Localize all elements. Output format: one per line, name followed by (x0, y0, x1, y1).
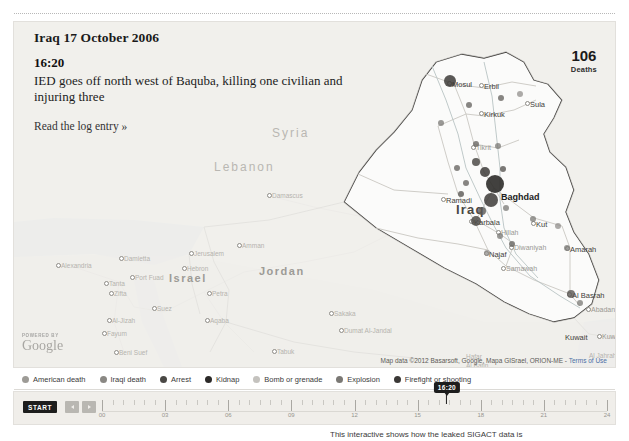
timeline-tick-major (544, 400, 545, 411)
chevron-left-icon (71, 405, 74, 409)
timeline-track[interactable]: 000306091215182124 16:20 (102, 396, 607, 422)
figure-caption: This interactive shows how the leaked SI… (330, 430, 629, 441)
timeline-tick-minor (407, 400, 408, 405)
timeline-tick-major (355, 400, 356, 411)
timeline-tick-minor (502, 400, 503, 405)
legend-item-label: American death (33, 375, 86, 384)
timeline-tick-minor (323, 400, 324, 405)
legend-item[interactable]: American death (22, 375, 86, 384)
start-button[interactable]: START (23, 401, 57, 413)
timeline-tick-label: 24 (604, 412, 611, 418)
timeline-tick-minor (186, 400, 187, 405)
timeline-tick-label: 18 (477, 412, 484, 418)
map-legend: American deathIraqi deathArrestKidnapBom… (14, 370, 615, 388)
timeline-tick-minor (302, 400, 303, 405)
timeline-tick-major (102, 400, 103, 411)
legend-item-label: Arrest (171, 375, 191, 384)
timeline-tick-label: 15 (414, 412, 421, 418)
legend-item-label: Bomb or grenade (264, 375, 322, 384)
timeline-tick-major (607, 400, 608, 411)
legend-swatch-icon (394, 376, 401, 383)
legend-item-label: Explosion (347, 375, 380, 384)
timeline-tick-major (291, 400, 292, 411)
timeline-tick-minor (333, 400, 334, 405)
timeline-tick-minor (312, 400, 313, 405)
timeline-tick-label: 12 (351, 412, 358, 418)
timeline-ticks (102, 400, 607, 411)
timeline-tick-minor (113, 400, 114, 405)
terms-of-use-link[interactable]: Terms of Use (569, 357, 607, 364)
step-forward-button[interactable] (82, 401, 96, 413)
event-time: 16:20 (34, 55, 394, 71)
legend-swatch-icon (100, 376, 107, 383)
legend-item[interactable]: Bomb or grenade (253, 375, 322, 384)
legend-item[interactable]: Explosion (336, 375, 380, 384)
map-card: SyriaLebanonIsraelJordanIraqKuwait Mosul… (14, 22, 615, 367)
timeline-tick-minor (554, 400, 555, 405)
timeline-tick-minor (270, 400, 271, 405)
google-logo: POWERED BY Google (22, 333, 63, 353)
timeline-tick-minor (565, 400, 566, 405)
timeline-tick-labels: 000306091215182124 (102, 412, 607, 422)
timeline-tick-minor (512, 400, 513, 405)
timeline-tick-minor (376, 400, 377, 405)
legend-item[interactable]: Iraqi death (100, 375, 146, 384)
timeline-tick-minor (218, 400, 219, 405)
death-count-value: 106 (571, 48, 597, 63)
timeline-tick-minor (134, 400, 135, 405)
legend-item-label: Iraqi death (111, 375, 146, 384)
legend-item-label: Kidnap (216, 375, 239, 384)
event-description: IED goes off north west of Baquba, killi… (34, 73, 354, 106)
death-count-label: Deaths (571, 65, 597, 74)
timeline-tick-minor (470, 400, 471, 405)
timeline-tick-minor (207, 400, 208, 405)
legend-swatch-icon (160, 376, 167, 383)
event-header: Iraq 17 October 2006 16:20 IED goes off … (34, 30, 394, 134)
timeline-marker[interactable]: 16:20 (434, 382, 460, 404)
timeline-tick-minor (523, 400, 524, 405)
timeline-tick-minor (386, 400, 387, 405)
iraq-war-logs-interactive: SyriaLebanonIsraelJordanIraqKuwait Mosul… (0, 0, 629, 441)
timeline-tick-minor (575, 400, 576, 405)
timeline-tick-minor (281, 400, 282, 405)
timeline-tick-minor (197, 400, 198, 405)
timeline-tick-label: 09 (288, 412, 295, 418)
timeline-tick-minor (365, 400, 366, 405)
chevron-right-icon (88, 405, 91, 409)
legend-swatch-icon (336, 376, 343, 383)
legend-swatch-icon (253, 376, 260, 383)
death-counter: 106 Deaths (571, 48, 597, 74)
map-attribution-text: Map data ©2012 Basarsoft, Google, Mapa G… (380, 357, 563, 364)
page-title: Iraq 17 October 2006 (34, 30, 394, 46)
google-wordmark: Google (22, 339, 63, 353)
top-dotted-rule (14, 13, 615, 15)
timeline-tick-minor (249, 400, 250, 405)
timeline-tick-label: 03 (162, 412, 169, 418)
timeline-tick-label: 06 (225, 412, 232, 418)
timeline-tick-minor (428, 400, 429, 405)
timeline-tick-major (228, 400, 229, 411)
map-attribution: Map data ©2012 Basarsoft, Google, Mapa G… (380, 357, 607, 364)
timeline-tick-minor (397, 400, 398, 405)
timeline-tick-major (481, 400, 482, 411)
read-log-entry-link[interactable]: Read the log entry » (34, 120, 127, 132)
timeline-tick-label: 21 (541, 412, 548, 418)
timeline-tick-label: 00 (99, 412, 106, 418)
timeline-tick-minor (344, 400, 345, 405)
timeline-tick-minor (144, 400, 145, 405)
timeline-tick-minor (239, 400, 240, 405)
legend-item[interactable]: Arrest (160, 375, 191, 384)
timeline-tick-minor (260, 400, 261, 405)
legend-item[interactable]: Kidnap (205, 375, 239, 384)
legend-separator (14, 389, 615, 390)
timeline-scrubber[interactable]: START 000306091215182124 16:20 (14, 392, 615, 424)
timeline-tick-minor (596, 400, 597, 405)
timeline-tick-minor (155, 400, 156, 405)
legend-swatch-icon (22, 376, 29, 383)
timeline-tick-major (418, 400, 419, 411)
timeline-tick-minor (176, 400, 177, 405)
timeline-tick-minor (533, 400, 534, 405)
timeline-marker-tip (444, 392, 450, 396)
step-back-button[interactable] (65, 401, 79, 413)
timeline-tick-minor (123, 400, 124, 405)
